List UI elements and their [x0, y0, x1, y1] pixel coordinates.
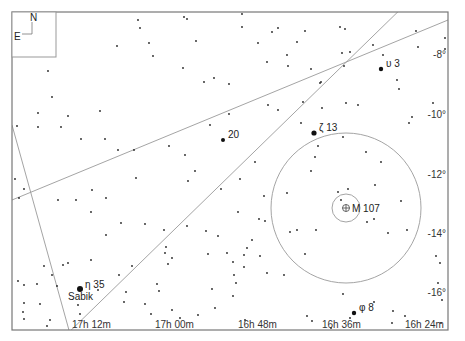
- star-icon: [56, 285, 58, 287]
- star-icon: [435, 255, 437, 257]
- star-icon: [340, 199, 342, 201]
- star-icon: [22, 311, 24, 313]
- star-icon: [79, 313, 81, 315]
- star-icon: [277, 109, 279, 111]
- star-icon: [286, 54, 288, 56]
- star-icon: [304, 30, 306, 32]
- star-icon: [194, 170, 196, 172]
- axis-labels: 17h 12m17h 00m16h 48m16h 36m16h 24m-8°-1…: [72, 49, 446, 330]
- star-icon: [271, 31, 273, 33]
- star-icon: [372, 44, 374, 46]
- star-icon: [246, 247, 248, 249]
- star-icon: [357, 104, 359, 106]
- star-icon: [374, 184, 376, 186]
- star-icon: [62, 264, 64, 266]
- star-icon: [345, 102, 347, 104]
- star-icon: [46, 325, 48, 327]
- star-icon: [220, 188, 222, 190]
- chart-frame: [12, 12, 448, 330]
- star-icon: [171, 309, 173, 311]
- star-icon: [23, 302, 25, 304]
- star-proper-name: Sabik: [68, 291, 94, 302]
- star-icon: [125, 291, 127, 293]
- star-icon: [228, 83, 230, 85]
- star-icon: [23, 318, 25, 320]
- star-icon: [152, 55, 154, 57]
- star-icon: [77, 304, 79, 306]
- star-icon: [203, 81, 205, 83]
- star-icon: [391, 322, 393, 324]
- star-icon: [304, 253, 306, 255]
- star-icon: [239, 178, 241, 180]
- star-icon: [321, 107, 323, 109]
- star-icon: [183, 16, 185, 18]
- star-icon: [296, 41, 298, 43]
- star-icon: [267, 104, 269, 106]
- star-icon: [243, 266, 245, 268]
- bright-star-icon[interactable]: [221, 138, 225, 142]
- star-icon: [39, 303, 41, 305]
- star-chart: M 107 υ 3ζ 1320η 35Sabikφ 8 N E 17h 12m1…: [0, 0, 465, 341]
- star-icon: [441, 299, 443, 301]
- bright-star-icon[interactable]: [311, 130, 316, 135]
- star-icon: [213, 77, 215, 79]
- star-icon: [289, 231, 291, 233]
- dec-tick-label: -10°: [428, 109, 446, 120]
- dec-tick-label: -12°: [428, 169, 446, 180]
- star-icon: [168, 145, 170, 147]
- star-icon: [14, 178, 16, 180]
- star-icon: [43, 265, 45, 267]
- star-icon: [387, 232, 389, 234]
- m107-label: M 107: [352, 203, 380, 214]
- star-icon: [195, 40, 197, 42]
- star-icon: [135, 177, 137, 179]
- star-icon: [344, 28, 346, 30]
- star-icon: [186, 225, 188, 227]
- star-icon: [105, 197, 107, 199]
- star-icon: [90, 259, 92, 261]
- star-icon: [99, 110, 101, 112]
- star-icon: [320, 81, 322, 83]
- star-icon: [131, 265, 133, 267]
- deep-sky-object-m107[interactable]: M 107: [271, 133, 421, 283]
- star-icon: [254, 161, 256, 163]
- star-icon: [396, 79, 398, 81]
- star-icon: [342, 293, 344, 295]
- ra-tick-label: 17h 12m: [72, 319, 111, 330]
- constellation-line: [12, 125, 72, 341]
- star-icon: [228, 113, 230, 115]
- star-label: φ 8: [359, 302, 374, 313]
- compass-east-label: E: [14, 31, 21, 42]
- star-icon: [184, 154, 186, 156]
- bright-star-icon[interactable]: [352, 311, 356, 315]
- star-icon: [315, 229, 317, 231]
- star-icon: [67, 115, 69, 117]
- star-icon: [241, 13, 243, 15]
- star-icon: [337, 191, 339, 193]
- star-icon: [311, 320, 313, 322]
- star-icon: [226, 252, 228, 254]
- star-icon: [197, 314, 199, 316]
- star-icon: [105, 234, 107, 236]
- star-icon: [283, 274, 285, 276]
- star-icon: [18, 197, 20, 199]
- star-icon: [306, 315, 308, 317]
- field-stars: [14, 13, 446, 329]
- star-icon: [232, 261, 234, 263]
- star-icon: [373, 218, 375, 220]
- bright-star-icon[interactable]: [379, 67, 383, 71]
- star-icon: [156, 283, 158, 285]
- star-icon: [211, 288, 213, 290]
- ra-tick-label: 17h 00m: [155, 319, 194, 330]
- star-icon: [241, 26, 243, 28]
- star-icon: [300, 122, 302, 124]
- star-icon: [137, 19, 139, 21]
- star-icon: [439, 262, 441, 264]
- star-icon: [133, 149, 135, 151]
- star-icon: [258, 218, 260, 220]
- star-icon: [349, 51, 351, 53]
- star-icon: [150, 313, 152, 315]
- ra-tick-label: 16h 24m: [405, 319, 444, 330]
- star-icon: [205, 230, 207, 232]
- star-icon: [104, 138, 106, 140]
